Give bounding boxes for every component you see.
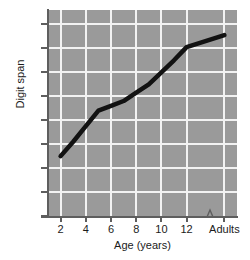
y-axis-tick: [41, 191, 47, 193]
x-axis-tick: [223, 216, 225, 222]
x-axis-tick: [85, 216, 87, 222]
x-axis-tick: [110, 216, 112, 222]
y-axis-title: Digit span: [14, 24, 26, 144]
data-line-layer: [48, 10, 237, 216]
y-axis-line: [47, 9, 49, 217]
x-axis-tick: [186, 216, 188, 222]
x-axis-tick-label: Adults: [194, 224, 250, 235]
x-axis-title: Age (years): [48, 239, 237, 251]
plot-area: [48, 10, 237, 216]
y-axis-tick: [41, 71, 47, 73]
y-axis-tick: [41, 23, 47, 25]
x-axis-tick: [60, 216, 62, 222]
digit-span-line-chart: 012345678 24681012Adults Age (years) Dig…: [0, 0, 250, 260]
y-axis-tick: [41, 167, 47, 169]
y-axis-tick: [41, 143, 47, 145]
x-axis-tick: [135, 216, 137, 222]
axis-break-zigzag-icon: [202, 208, 218, 218]
y-axis-tick: [41, 47, 47, 49]
y-axis-tick: [41, 95, 47, 97]
x-axis-tick: [160, 216, 162, 222]
y-axis-tick: [41, 215, 47, 217]
y-axis-tick: [41, 119, 47, 121]
digit-span-line: [61, 35, 225, 156]
